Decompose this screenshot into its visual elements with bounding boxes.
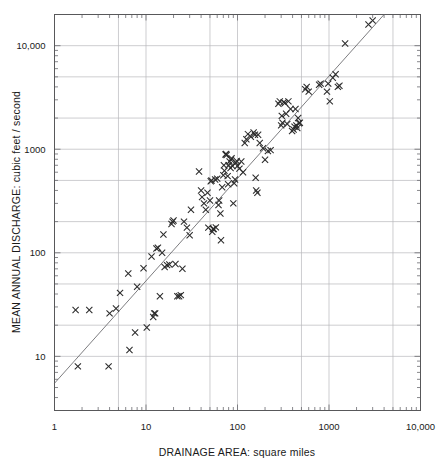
x-tick-label: 1	[52, 421, 57, 432]
data-point-marker	[126, 347, 132, 353]
data-point-marker	[216, 197, 222, 203]
data-point-marker	[179, 266, 185, 272]
data-point-marker	[198, 187, 204, 193]
data-point-marker	[125, 270, 131, 276]
x-axis-title: DRAINAGE AREA: square miles	[159, 446, 316, 458]
trend-line-layer	[55, 15, 385, 384]
x-tick-label: 1000	[318, 421, 339, 432]
data-point-marker	[253, 175, 259, 181]
data-point-marker	[201, 200, 207, 206]
data-point-marker	[132, 329, 138, 335]
grid-layer	[55, 15, 421, 411]
data-point-marker	[238, 158, 244, 164]
data-point-marker	[213, 224, 219, 230]
x-tick-label: 10,000	[406, 421, 435, 432]
data-point-marker	[86, 307, 92, 313]
data-point-marker	[187, 232, 193, 238]
y-tick-label: 1000	[24, 144, 45, 155]
data-point-marker	[217, 210, 223, 216]
y-tick-label: 10,000	[16, 40, 45, 51]
data-point-marker	[75, 363, 81, 369]
data-point-marker	[253, 187, 259, 193]
data-point-marker	[106, 310, 112, 316]
data-point-marker	[262, 157, 268, 163]
y-tick-label: 100	[30, 247, 46, 258]
data-point-marker	[221, 168, 227, 174]
data-point-marker	[220, 172, 226, 178]
x-tick-label: 100	[230, 421, 246, 432]
data-point-marker	[332, 71, 338, 77]
data-point-marker	[225, 181, 231, 187]
y-axis-title: MEAN ANNUAL DISCHARGE: cubic feet / seco…	[10, 91, 22, 333]
data-point-marker	[230, 200, 236, 206]
regression-trend-line	[55, 15, 385, 384]
data-point-marker	[199, 194, 205, 200]
data-point-marker	[240, 169, 246, 175]
data-point-marker	[134, 284, 140, 290]
scatter-plot-figure: 110100100010,000 10100100010,000 DRAINAG…	[0, 0, 443, 464]
data-point-marker	[279, 120, 285, 126]
data-point-marker	[184, 225, 190, 231]
data-point-marker	[370, 17, 376, 23]
data-point-marker	[203, 207, 209, 213]
data-point-marker	[160, 231, 166, 237]
data-point-marker	[188, 207, 194, 213]
data-point-marker	[325, 81, 331, 87]
x-tick-label: 10	[141, 421, 152, 432]
data-point-marker	[254, 190, 260, 196]
y-tick-label: 10	[35, 351, 46, 362]
data-point-marker	[148, 253, 154, 259]
data-point-marker	[225, 173, 231, 179]
data-point-marker	[157, 293, 163, 299]
data-point-marker	[72, 307, 78, 313]
data-point-marker	[196, 168, 202, 174]
data-point-marker	[292, 106, 298, 112]
data-point-marker	[117, 290, 123, 296]
data-point-marker	[218, 237, 224, 243]
data-point-marker	[257, 140, 263, 146]
data-point-marker	[284, 121, 290, 127]
data-point-marker	[327, 98, 333, 104]
data-point-marker	[105, 363, 111, 369]
x-axis-tick-labels: 110100100010,000	[52, 421, 435, 432]
data-point-marker	[219, 184, 225, 190]
plot-canvas: 110100100010,000 10100100010,000 DRAINAG…	[0, 0, 443, 464]
data-point-marker	[172, 261, 178, 267]
